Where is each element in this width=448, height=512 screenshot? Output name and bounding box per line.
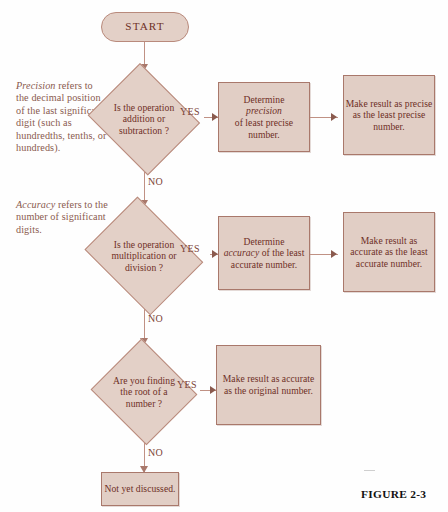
flowchart-figure: Precision refers to the decimal position… — [0, 0, 448, 512]
node-process2a-pre: Determine — [244, 236, 285, 247]
node-make-result-accurate-least: Make result as accurate as the least acc… — [343, 212, 435, 292]
edge-label-no-3: NO — [148, 447, 163, 458]
node-process1a-pre: Determine — [244, 94, 285, 105]
edge-label-no-2: NO — [148, 313, 163, 324]
annotation-accuracy-emphasis: Accuracy — [16, 199, 55, 210]
node-make-result-accurate-original: Make result as accurate as the original … — [216, 345, 321, 425]
node-process1b-label: Make result as precise as the least prec… — [345, 98, 433, 133]
node-process1a-emphasis: precision — [246, 105, 282, 116]
annotation-precision-emphasis: Precision — [16, 80, 56, 91]
node-decision-multiplication-division: Is the operation multiplication or divis… — [78, 203, 210, 309]
edge-label-yes-2: YES — [180, 243, 200, 254]
edge-label-no-1: NO — [148, 176, 163, 187]
stray-mark — [364, 470, 375, 471]
node-process2b-label: Make result as accurate as the least acc… — [344, 235, 434, 270]
node-process2a-emphasis: accuracy — [224, 247, 260, 258]
node-determine-accuracy: Determine accuracy of the least accurate… — [218, 216, 310, 290]
arrowhead-process1a-to-process1b — [331, 113, 337, 121]
node-decision-addition-subtraction: Is the operation addition or subtraction… — [84, 67, 204, 171]
node-make-result-precise: Make result as precise as the least prec… — [343, 75, 435, 155]
node-process3a-label: Make result as accurate as the original … — [219, 373, 319, 396]
node-start: START — [101, 12, 189, 42]
node-decision3-label: Are you finding the root of a number ? — [106, 375, 182, 410]
node-decision2-label: Is the operation multiplication or divis… — [100, 239, 188, 274]
node-determine-precision: Determine precision of least precise num… — [218, 82, 310, 152]
node-not-yet-discussed: Not yet discussed. — [101, 472, 179, 506]
figure-caption: FIGURE 2-3 — [361, 488, 426, 500]
node-decision1-label: Is the operation addition or subtraction… — [107, 102, 181, 137]
arrowhead-process2a-to-process2b — [331, 250, 337, 258]
node-decision-root-of-number: Are you finding the root of a number ? — [88, 341, 200, 443]
node-process1a-post: of least precise number. — [235, 117, 293, 140]
edge-label-yes-3: YES — [177, 379, 197, 390]
node-start-label: START — [125, 21, 164, 33]
node-end-label: Not yet discussed. — [103, 483, 177, 495]
edge-label-yes-1: YES — [180, 106, 200, 117]
